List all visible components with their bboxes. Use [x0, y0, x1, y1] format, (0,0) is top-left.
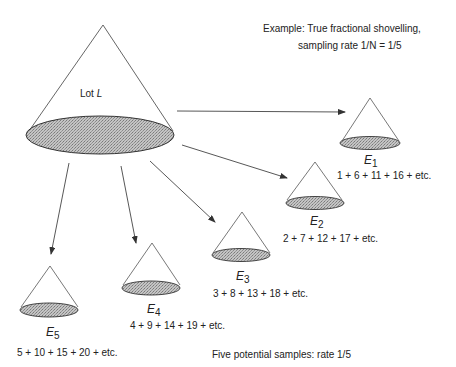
- arrow-to-e2: [182, 145, 287, 178]
- sample-name: E: [236, 269, 244, 283]
- sample-index: 2: [318, 219, 324, 230]
- sample-label-e3: E3: [236, 269, 250, 285]
- sample-label-e1: E1: [364, 153, 378, 169]
- sample-index: 1: [372, 158, 378, 169]
- sample-name: E: [46, 325, 54, 339]
- diagram-canvas: [0, 0, 456, 367]
- sample-index: 4: [155, 307, 161, 318]
- sample-name: E: [364, 153, 372, 167]
- footer-caption: Five potential samples: rate 1/5: [212, 349, 351, 360]
- lot-label-var: L: [97, 88, 103, 99]
- sample-index: 5: [54, 330, 60, 341]
- sample-name: E: [310, 214, 318, 228]
- arrow-to-e4: [121, 166, 136, 243]
- sampling-rate-text: sampling rate 1/N = 1/5: [298, 40, 402, 51]
- arrow-to-e5: [51, 163, 69, 254]
- sampling-rate-value: sampling rate 1/N = 1/5: [298, 40, 402, 51]
- sample-sequence-e4: 4 + 9 + 14 + 19 + etc.: [130, 320, 225, 331]
- sample-cone-e4: [122, 243, 180, 295]
- sample-cone-e3: [212, 212, 270, 262]
- sample-label-e5: E5: [46, 325, 60, 341]
- arrow-to-e3: [150, 161, 215, 222]
- sample-sequence-e1: 1 + 6 + 11 + 16 + etc.: [337, 170, 431, 181]
- example-title: Example: True fractional shovelling,: [263, 23, 421, 34]
- lot-label-prefix: Lot: [80, 88, 94, 99]
- sample-cone-e5: [20, 266, 78, 317]
- sample-cone-e1: [340, 98, 400, 150]
- sample-label-e4: E4: [147, 302, 161, 318]
- sample-index: 3: [244, 274, 250, 285]
- sample-cone-e2: [286, 162, 344, 210]
- sample-sequence-e5: 5 + 10 + 15 + 20 + etc.: [17, 347, 118, 358]
- sample-name: E: [147, 302, 155, 316]
- lot-label: Lot L: [80, 88, 102, 99]
- sample-sequence-e3: 3 + 8 + 13 + 18 + etc.: [213, 288, 308, 299]
- sample-sequence-e2: 2 + 7 + 12 + 17 + etc.: [283, 233, 378, 244]
- sample-label-e2: E2: [310, 214, 324, 230]
- arrow-to-e1: [177, 111, 345, 112]
